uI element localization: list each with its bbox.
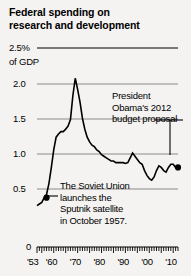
y-tick-label-1-0: 1.0 bbox=[13, 149, 26, 159]
chart-figure: Federal spending on research and develop… bbox=[0, 0, 191, 276]
y-tick-label-0-5: 0.5 bbox=[13, 184, 26, 194]
sputnik-annotation-line-3: Sputnik satellite bbox=[60, 203, 130, 215]
obama-annotation-line-1: President bbox=[112, 90, 177, 102]
x-axis-group bbox=[37, 247, 178, 253]
y-tick-label-2-5: 2.5% bbox=[9, 43, 30, 53]
obama-annotation-line-2: Obama's 2012 bbox=[112, 102, 177, 114]
data-marker-obama bbox=[175, 164, 181, 170]
x-tick-label-10: '10 bbox=[165, 256, 176, 267]
y-tick-label-1-5: 1.5 bbox=[13, 114, 26, 124]
y-tick-label-2-0: 2.0 bbox=[13, 79, 26, 89]
obama-budget-annotation: President Obama's 2012 budget proposal bbox=[112, 90, 177, 125]
obama-annotation-line-3: budget proposal bbox=[112, 113, 177, 125]
x-tick-label-53: '53 bbox=[27, 256, 38, 267]
x-tick-label-00: '00 bbox=[141, 256, 152, 267]
sputnik-annotation: The Soviet Union launches the Sputnik sa… bbox=[60, 180, 130, 226]
sputnik-annotation-line-2: launches the bbox=[60, 192, 130, 204]
x-axis-tick-marks bbox=[37, 247, 178, 253]
x-tick-label-60: '60 bbox=[46, 256, 57, 267]
sputnik-annotation-line-4: in October 1957. bbox=[60, 215, 130, 227]
x-tick-label-90: '90 bbox=[117, 256, 128, 267]
y-axis-unit-label: of GDP bbox=[9, 56, 39, 67]
x-tick-label-80: '80 bbox=[94, 256, 105, 267]
y-tick-label-0: 0 bbox=[26, 242, 31, 252]
sputnik-annotation-line-1: The Soviet Union bbox=[60, 180, 130, 192]
x-tick-label-70: '70 bbox=[70, 256, 81, 267]
